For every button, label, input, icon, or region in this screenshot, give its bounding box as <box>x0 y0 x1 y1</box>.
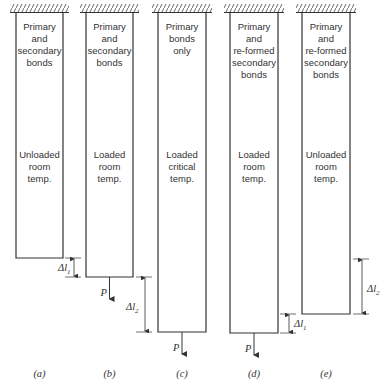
load-label: P <box>172 342 180 353</box>
bond-state-text: bonds <box>241 69 267 80</box>
bond-state-text: Primary <box>166 21 199 32</box>
bar-b: PrimaryandsecondarybondsLoadedroomtemp.P… <box>80 4 139 380</box>
dimension-delta-l: Δl2 <box>353 259 380 314</box>
bond-state-text: secondary <box>88 45 132 56</box>
bond-state-text: Primary <box>93 21 126 32</box>
fixed-support-hatch <box>224 4 284 12</box>
load-condition-text: Unloaded <box>306 149 347 160</box>
load-condition-text: temp. <box>170 173 194 184</box>
dimension-delta-l: Δl1 <box>57 258 81 277</box>
bond-diagram: PrimaryandsecondarybondsUnloadedroomtemp… <box>0 0 389 388</box>
load-arrow-icon: P <box>100 277 110 299</box>
load-condition-text: Loaded <box>94 149 126 160</box>
bond-state-text: and <box>102 33 118 44</box>
panel-caption: (e) <box>320 368 332 380</box>
load-condition-text: room <box>243 161 265 172</box>
panel-caption: (d) <box>248 368 261 380</box>
bond-state-text: secondary <box>18 45 62 56</box>
fixed-support-hatch <box>296 4 356 12</box>
load-condition-text: room <box>315 161 337 172</box>
load-condition-text: temp. <box>242 173 266 184</box>
panel-caption: (b) <box>103 368 116 380</box>
bond-state-text: bonds <box>97 57 123 68</box>
load-label: P <box>100 287 108 298</box>
load-condition-text: Unloaded <box>19 149 60 160</box>
dimension-label: Δl1 <box>293 318 307 332</box>
dimension-delta-l: Δl2 <box>125 277 152 332</box>
load-condition-text: Loaded <box>238 149 270 160</box>
dimension-delta-l: Δl1 <box>280 314 307 333</box>
bar-d: Primaryandre-formedsecondarybondsLoadedr… <box>224 4 284 380</box>
dimension-label: Δl2 <box>125 301 139 315</box>
fixed-support-hatch <box>10 4 69 12</box>
bond-state-text: bonds <box>27 57 53 68</box>
bond-state-text: and <box>318 33 334 44</box>
load-arrow-icon: P <box>172 332 182 354</box>
load-condition-text: temp. <box>314 173 338 184</box>
dimension-label: Δl1 <box>57 262 71 276</box>
load-condition-text: room <box>99 161 121 172</box>
bond-state-text: Primary <box>238 21 271 32</box>
load-condition-text: temp. <box>98 173 122 184</box>
bond-state-text: bonds <box>169 33 195 44</box>
bond-state-text: re-formed <box>305 45 346 56</box>
load-condition-text: Loaded <box>166 149 198 160</box>
bond-state-text: only <box>173 45 191 56</box>
bond-state-text: and <box>246 33 262 44</box>
panel-caption: (a) <box>33 368 46 380</box>
load-condition-text: critical <box>169 161 196 172</box>
bond-state-text: secondary <box>304 57 348 68</box>
bond-state-text: Primary <box>310 21 343 32</box>
bond-state-text: secondary <box>232 57 276 68</box>
bond-state-text: and <box>32 33 48 44</box>
bond-state-text: bonds <box>313 69 339 80</box>
fixed-support-hatch <box>80 4 139 12</box>
bar-a: PrimaryandsecondarybondsUnloadedroomtemp… <box>10 4 69 380</box>
panel-caption: (c) <box>176 368 188 380</box>
bond-state-text: Primary <box>23 21 56 32</box>
bond-state-text: re-formed <box>233 45 274 56</box>
fixed-support-hatch <box>152 4 212 12</box>
load-label: P <box>244 343 252 354</box>
bar-c: PrimarybondsonlyLoadedcriticaltemp.P(c) <box>152 4 212 380</box>
load-arrow-icon: P <box>244 333 254 355</box>
dimension-label: Δl2 <box>366 283 380 297</box>
load-condition-text: temp. <box>28 173 52 184</box>
load-condition-text: room <box>29 161 51 172</box>
